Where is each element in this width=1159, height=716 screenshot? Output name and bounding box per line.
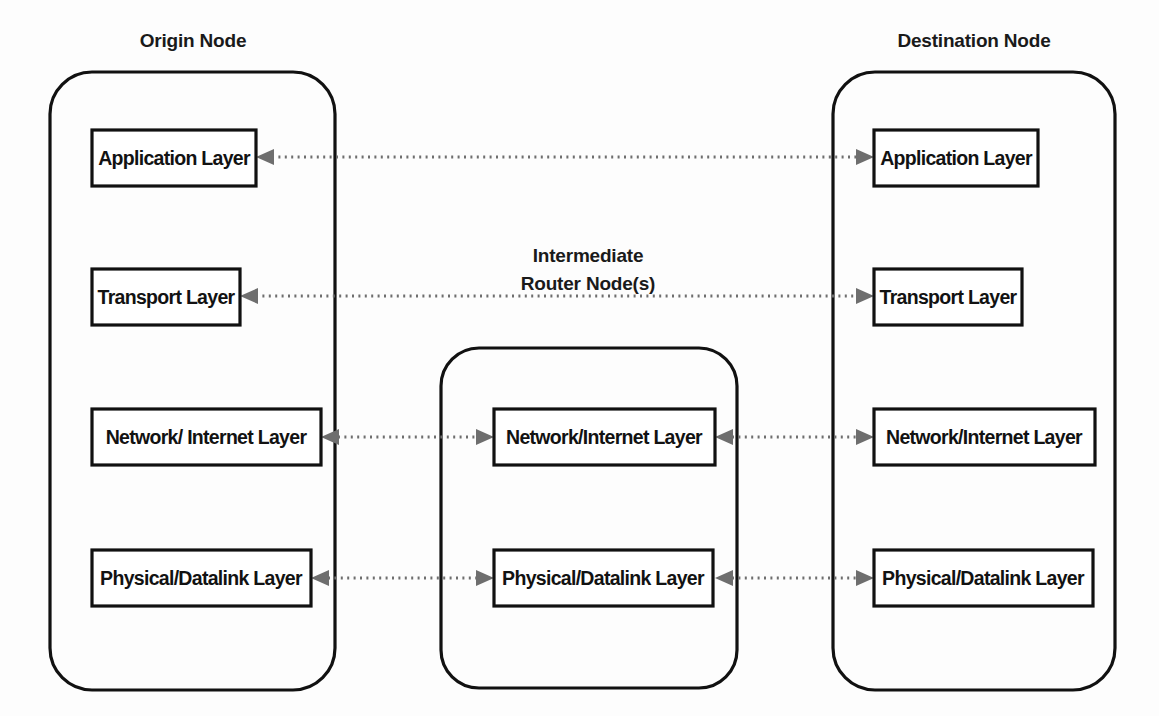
destination-layer-network-label: Network/Internet Layer: [886, 426, 1083, 448]
origin-layer-physical-label: Physical/Datalink Layer: [100, 567, 303, 589]
router-node-container[interactable]: [441, 348, 737, 688]
origin-layer-application[interactable]: Application Layer: [92, 130, 256, 186]
origin-layer-network[interactable]: Network/ Internet Layer: [92, 409, 321, 465]
origin-layer-application-label: Application Layer: [98, 147, 251, 169]
router-layer-network[interactable]: Network/Internet Layer: [494, 409, 715, 465]
destination-layer-network[interactable]: Network/Internet Layer: [874, 409, 1095, 465]
router-layer-physical-label: Physical/Datalink Layer: [502, 567, 705, 589]
origin-layer-physical[interactable]: Physical/Datalink Layer: [92, 550, 311, 606]
destination-layer-transport-label: Transport Layer: [880, 286, 1018, 308]
destination-layer-application-label: Application Layer: [880, 147, 1033, 169]
router-layer-network-label: Network/Internet Layer: [506, 426, 703, 448]
origin-node-title: Origin Node: [140, 30, 247, 51]
destination-layer-transport[interactable]: Transport Layer: [874, 269, 1022, 325]
destination-node-title: Destination Node: [897, 30, 1050, 51]
origin-layer-transport[interactable]: Transport Layer: [92, 269, 240, 325]
network-layers-diagram: Origin Node Intermediate Router Node(s) …: [0, 0, 1159, 716]
diagram-canvas: Origin Node Intermediate Router Node(s) …: [0, 0, 1159, 716]
router-node-title-line2: Router Node(s): [521, 273, 655, 294]
origin-layer-transport-label: Transport Layer: [98, 286, 236, 308]
connection-application-layer: [256, 149, 874, 165]
destination-layer-physical[interactable]: Physical/Datalink Layer: [874, 550, 1093, 606]
destination-layer-application[interactable]: Application Layer: [874, 130, 1038, 186]
router-node-title-line1: Intermediate: [533, 245, 644, 266]
destination-layer-physical-label: Physical/Datalink Layer: [882, 567, 1085, 589]
origin-layer-network-label: Network/ Internet Layer: [106, 426, 308, 448]
router-layer-physical[interactable]: Physical/Datalink Layer: [494, 550, 713, 606]
